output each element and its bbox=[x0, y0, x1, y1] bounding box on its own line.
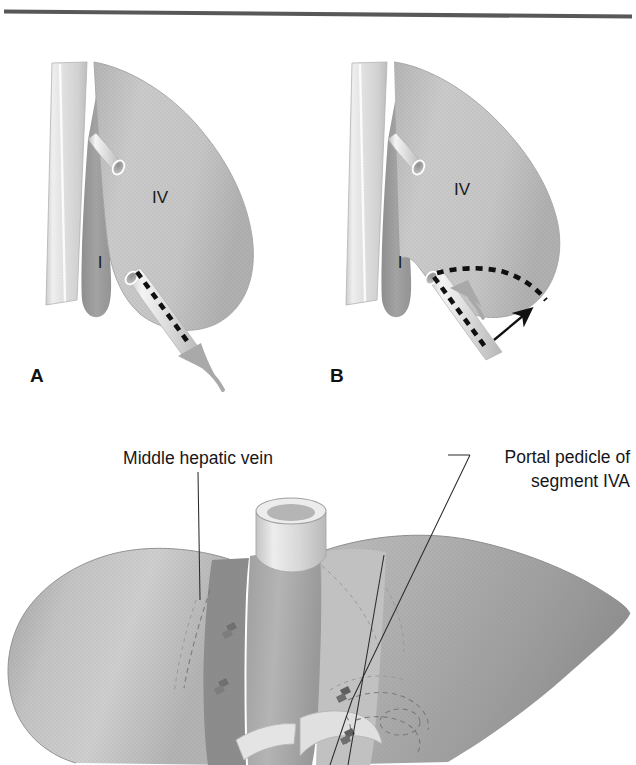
callout-middle-hepatic-vein-text: Middle hepatic vein bbox=[123, 448, 273, 468]
callout-portal-pedicle-line1: Portal pedicle of bbox=[505, 447, 631, 467]
panel-letter-a: A bbox=[30, 365, 44, 386]
callout-portal-pedicle-line2: segment IVA bbox=[531, 471, 630, 491]
callout-portal-pedicle: Portal pedicle of segment IVA bbox=[505, 447, 631, 491]
panel-b: IV I B bbox=[330, 62, 560, 386]
figure-illustration: IV I A bbox=[0, 0, 636, 765]
panel-a: IV I A bbox=[30, 62, 253, 390]
segment-i-label-b: I bbox=[398, 253, 403, 272]
segment-iv-label-b: IV bbox=[454, 180, 471, 199]
left-lobe bbox=[8, 548, 232, 765]
figure-page: IV I A bbox=[0, 0, 636, 765]
ivc-stump bbox=[256, 498, 326, 572]
segment-i-label-a: I bbox=[98, 253, 103, 272]
callout-middle-hepatic-vein: Middle hepatic vein bbox=[123, 448, 273, 468]
vena-cava-band-b bbox=[346, 62, 387, 305]
liver-main-illustration bbox=[8, 455, 630, 765]
panel-letter-b: B bbox=[330, 365, 344, 386]
top-rule bbox=[4, 12, 632, 17]
vena-cava-band-a bbox=[46, 62, 87, 305]
segment-iv-shape-a bbox=[94, 62, 253, 330]
segment-iv-label-a: IV bbox=[152, 188, 169, 207]
liver-cleft bbox=[203, 558, 249, 765]
segment-iv-shape-b bbox=[394, 62, 560, 318]
